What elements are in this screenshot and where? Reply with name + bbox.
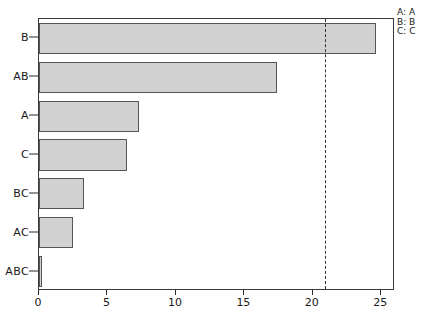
x-axis-label-15: 15	[236, 296, 250, 309]
x-axis-tick-5	[106, 290, 107, 295]
x-axis-tick-0	[38, 290, 39, 295]
bar-ac	[39, 217, 73, 248]
bar-bc	[39, 178, 84, 209]
y-axis-label-b: B	[21, 31, 29, 44]
bar-abc	[39, 256, 42, 287]
x-axis-label-10: 10	[168, 296, 182, 309]
x-axis-tick-25	[380, 290, 381, 295]
y-axis-label-a: A	[21, 109, 29, 122]
y-axis-category-labels: BABACBCACABC	[0, 0, 29, 327]
y-axis-tick-ac	[29, 231, 38, 232]
legend: A: AB: BC: C	[397, 8, 428, 37]
y-axis-tick-ab	[29, 76, 38, 77]
y-axis-tick-c	[29, 154, 38, 155]
plot-area	[38, 18, 394, 290]
y-axis-tick-a	[29, 115, 38, 116]
bar-a	[39, 101, 139, 132]
x-axis-tick-10	[175, 290, 176, 295]
y-axis-label-bc: BC	[13, 186, 29, 199]
y-axis-label-c: C	[21, 148, 29, 161]
y-axis-label-ac: AC	[13, 225, 29, 238]
x-axis-tick-20	[312, 290, 313, 295]
x-axis-label-20: 20	[305, 296, 319, 309]
bar-c	[39, 139, 127, 170]
y-axis-tick-abc	[29, 270, 38, 271]
x-axis-label-0: 0	[35, 296, 42, 309]
y-axis-label-ab: AB	[13, 70, 29, 83]
pareto-chart: BABACBCACABC 0510152025 A: AB: BC: C	[0, 0, 428, 327]
bars-layer	[39, 19, 393, 289]
legend-entry-c: C: C	[397, 27, 428, 37]
bar-ab	[39, 62, 277, 93]
x-axis-tick-15	[243, 290, 244, 295]
y-axis-label-abc: ABC	[5, 264, 29, 277]
x-axis-label-5: 5	[103, 296, 110, 309]
y-axis-tick-bc	[29, 192, 38, 193]
x-axis-label-25: 25	[373, 296, 387, 309]
y-axis-tick-b	[29, 37, 38, 38]
significance-reference-line	[325, 19, 326, 289]
